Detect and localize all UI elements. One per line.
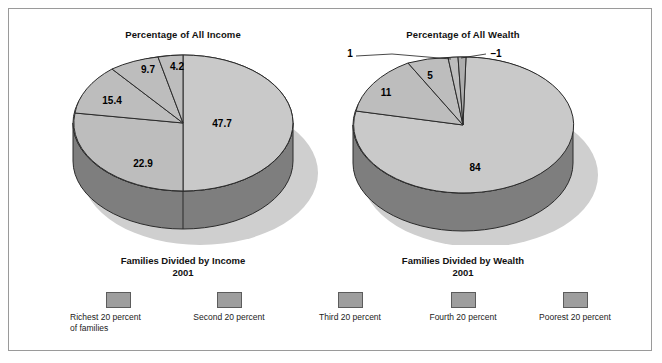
legend-label-richest-line1: Richest 20 percent (70, 312, 178, 323)
legend-item-second: Second 20 percent (169, 292, 289, 323)
right-label-fourth: 1 (347, 48, 353, 59)
left-caption-line1: Families Divided by Income (68, 255, 298, 267)
legend-swatch-poorest (563, 292, 588, 308)
legend-swatch-second (217, 292, 242, 308)
right-chart-title: Percentage of All Wealth (348, 29, 578, 40)
figure-root: Percentage of All Income 47.7 22.9 15.4 (0, 0, 662, 363)
right-pie-chart: 84 11 5 1 –1 (320, 45, 630, 245)
left-pie-chart: 47.7 22.9 15.4 9.7 4.2 (40, 45, 340, 245)
legend-label-second: Second 20 percent (169, 312, 289, 323)
left-chart-caption: Families Divided by Income 2001 (68, 255, 298, 279)
left-label-second: 22.9 (133, 158, 153, 169)
legend-item-fourth: Fourth 20 percent (403, 292, 523, 323)
legend-swatch-richest (106, 292, 131, 308)
right-caption-line1: Families Divided by Wealth (348, 255, 578, 267)
right-caption-line2: 2001 (348, 267, 578, 279)
legend-item-richest: Richest 20 percent of families (58, 292, 178, 333)
legend-swatch-third (338, 292, 363, 308)
legend-label-poorest: Poorest 20 percent (515, 312, 635, 323)
legend-item-poorest: Poorest 20 percent (515, 292, 635, 323)
left-label-third: 15.4 (102, 95, 122, 106)
legend-item-third: Third 20 percent (290, 292, 410, 323)
right-pie-svg: 84 11 5 1 –1 (320, 45, 630, 245)
right-label-richest: 84 (469, 162, 481, 173)
legend-label-third: Third 20 percent (290, 312, 410, 323)
legend-label-richest: Richest 20 percent of families (58, 312, 178, 333)
left-chart-title: Percentage of All Income (68, 29, 298, 40)
right-label-poorest: –1 (490, 48, 502, 59)
right-chart-caption: Families Divided by Wealth 2001 (348, 255, 578, 279)
left-label-richest: 47.7 (212, 118, 232, 129)
left-pie-svg: 47.7 22.9 15.4 9.7 4.2 (40, 45, 340, 245)
right-label-second: 11 (381, 87, 392, 98)
right-label-third: 5 (427, 70, 433, 81)
left-label-poorest: 4.2 (170, 61, 184, 72)
legend-swatch-fourth (451, 292, 476, 308)
chart-legend: Richest 20 percent of families Second 20… (10, 292, 652, 350)
legend-label-richest-line2: of families (70, 323, 178, 334)
left-label-fourth: 9.7 (141, 64, 155, 75)
legend-label-fourth: Fourth 20 percent (403, 312, 523, 323)
left-caption-line2: 2001 (68, 267, 298, 279)
